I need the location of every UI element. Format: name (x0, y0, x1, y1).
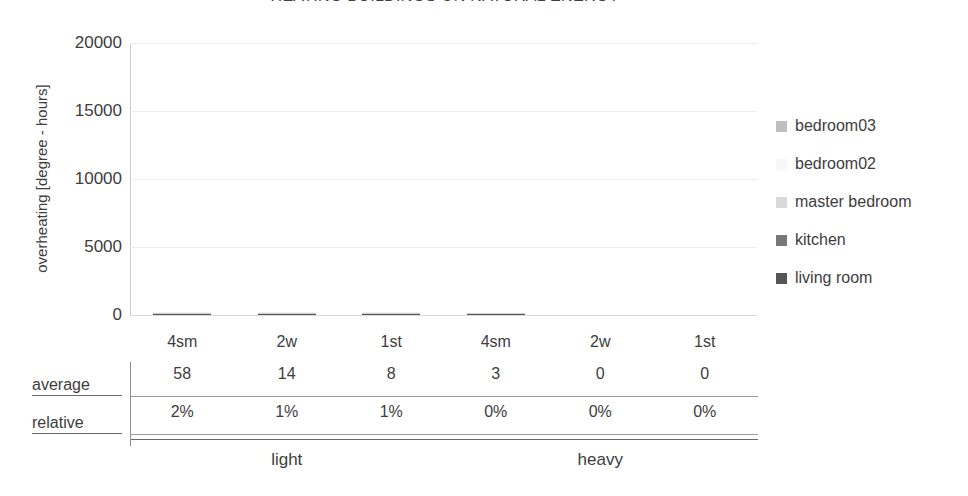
x-axis-baseline (130, 315, 757, 316)
table-cell: 3 (491, 365, 500, 383)
y-tick-0: 0 (6, 305, 122, 325)
table-cell: 58 (173, 365, 191, 383)
legend-label: bedroom02 (795, 155, 876, 173)
table-row-rule (130, 434, 758, 435)
x-tick-label: 1st (694, 333, 715, 351)
legend-swatch-icon (776, 273, 787, 284)
table-cell: 0% (589, 403, 612, 421)
table-row-rule (130, 396, 758, 397)
legend-label: bedroom03 (795, 117, 876, 135)
table-cell: 14 (278, 365, 296, 383)
table-row-header-average: average (32, 376, 122, 396)
chart-title: HEATING BUILDINGS ON NATURAL ENERGY (130, 0, 760, 5)
plot-area (130, 43, 757, 315)
table-row: average 58148300 (32, 362, 758, 398)
table-row-header-relative: relative (32, 414, 122, 434)
legend-label: living room (795, 269, 872, 287)
table-cell: 0 (596, 365, 605, 383)
y-tick-10000: 10000 (6, 169, 122, 189)
x-tick-label: 4sm (481, 333, 511, 351)
table-cell: 0% (693, 403, 716, 421)
legend-swatch-icon (776, 197, 787, 208)
group-axis-rule (130, 439, 758, 440)
y-tick-5000: 5000 (6, 237, 122, 257)
x-tick-label: 4sm (167, 333, 197, 351)
table-row: relative 2%1%1%0%0%0% (32, 400, 758, 436)
table-cell: 2% (171, 403, 194, 421)
x-axis-tick-labels: 4sm2w1st4sm2w1st (130, 333, 757, 359)
table-cell: 8 (387, 365, 396, 383)
data-table: average 58148300 relative 2%1%1%0%0%0% (32, 362, 758, 438)
group-axis-tick (130, 432, 131, 446)
gridline-20000 (130, 43, 757, 44)
chart-legend: bedroom03bedroom02master bedroomkitchenl… (776, 107, 962, 297)
x-tick-label: 1st (381, 333, 402, 351)
legend-swatch-icon (776, 159, 787, 170)
group-label-light: light (271, 450, 302, 470)
table-cell: 1% (275, 403, 298, 421)
y-tick-20000: 20000 (6, 33, 122, 53)
gridline-10000 (130, 179, 757, 180)
table-cell: 1% (380, 403, 403, 421)
gridline-15000 (130, 111, 757, 112)
x-tick-label: 2w (590, 333, 610, 351)
table-cell: 0% (484, 403, 507, 421)
legend-swatch-icon (776, 121, 787, 132)
y-tick-15000: 15000 (6, 101, 122, 121)
table-vertical-divider (130, 362, 131, 440)
legend-label: kitchen (795, 231, 846, 249)
legend-item-master-bedroom[interactable]: master bedroom (776, 183, 962, 221)
legend-item-bedroom02[interactable]: bedroom02 (776, 145, 962, 183)
legend-swatch-icon (776, 235, 787, 246)
legend-item-kitchen[interactable]: kitchen (776, 221, 962, 259)
legend-item-bedroom03[interactable]: bedroom03 (776, 107, 962, 145)
gridline-5000 (130, 247, 757, 248)
legend-item-living-room[interactable]: living room (776, 259, 962, 297)
group-label-heavy: heavy (578, 450, 623, 470)
x-tick-label: 2w (277, 333, 297, 351)
legend-label: master bedroom (795, 193, 912, 211)
table-cell: 0 (700, 365, 709, 383)
